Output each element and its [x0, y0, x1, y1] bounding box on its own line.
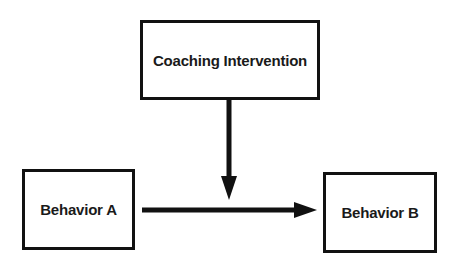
- arrows-layer: [0, 0, 456, 265]
- moderator-arrow: [221, 99, 237, 200]
- causal-arrow: [142, 202, 317, 218]
